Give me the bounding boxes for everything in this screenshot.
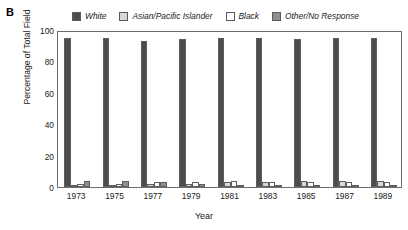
- legend-swatch-other-no-response: [272, 12, 281, 21]
- x-axis-tick-label: 1989: [363, 192, 403, 200]
- legend-item: Asian/Pacific Islander: [119, 9, 212, 23]
- bar: [294, 39, 301, 187]
- bar-group: [218, 32, 244, 187]
- x-axis-tick-label: 1981: [210, 192, 250, 200]
- bar-group: [64, 32, 90, 187]
- legend-swatch-white-series: [72, 12, 81, 21]
- bar-group: [333, 32, 359, 187]
- x-axis-tick-label: 1975: [95, 192, 135, 200]
- y-axis-tick-labels: 020406080100: [26, 0, 54, 230]
- bar: [103, 38, 110, 187]
- plot-area: [58, 32, 401, 187]
- x-axis-tick-label: 1977: [133, 192, 173, 200]
- bar: [179, 39, 186, 187]
- bar-group: [256, 32, 282, 187]
- legend-item-label: Black: [239, 12, 259, 20]
- x-axis-title: Year: [0, 211, 408, 221]
- legend-item: White: [72, 9, 106, 23]
- bar-group: [179, 32, 205, 187]
- y-axis-tick-label: 80: [30, 58, 54, 66]
- bar: [333, 38, 340, 187]
- x-axis-tick-label: 1973: [56, 192, 96, 200]
- y-axis-tick-label: 100: [30, 27, 54, 35]
- legend-item: Black: [226, 9, 259, 23]
- legend-item-label: Asian/Pacific Islander: [132, 12, 212, 20]
- bar: [199, 184, 206, 187]
- bar-group: [103, 32, 129, 187]
- y-axis-tick-label: 60: [30, 90, 54, 98]
- bar-group: [371, 32, 397, 187]
- bar: [371, 38, 378, 187]
- bar: [64, 38, 71, 187]
- chart-legend: WhiteAsian/Pacific IslanderBlackOther/No…: [72, 9, 359, 23]
- plot-frame: [57, 31, 402, 188]
- x-axis-tick-label: 1979: [171, 192, 211, 200]
- y-axis-tick-label: 20: [30, 153, 54, 161]
- bar: [256, 38, 263, 187]
- bar: [84, 181, 91, 187]
- bar: [352, 185, 359, 187]
- bar-group: [141, 32, 167, 187]
- figure-panel-b: B WhiteAsian/Pacific IslanderBlackOther/…: [0, 0, 408, 230]
- legend-swatch-black-series: [226, 12, 235, 21]
- legend-item: Other/No Response: [272, 9, 359, 23]
- bar: [122, 181, 129, 187]
- bar: [314, 185, 321, 187]
- legend-item-label: White: [85, 12, 106, 20]
- bar: [160, 182, 167, 187]
- panel-label: B: [6, 6, 14, 18]
- bar: [141, 41, 148, 187]
- y-axis-tick-label: 0: [30, 184, 54, 192]
- legend-item-label: Other/No Response: [285, 12, 359, 20]
- bar-group: [294, 32, 320, 187]
- legend-swatch-asian-pacific-islander: [119, 12, 128, 21]
- y-axis-tick-label: 40: [30, 121, 54, 129]
- bar: [237, 185, 244, 187]
- bar: [275, 185, 282, 187]
- bar: [390, 185, 397, 187]
- x-axis-tick-label: 1983: [248, 192, 288, 200]
- x-axis-tick-label: 1987: [325, 192, 365, 200]
- x-axis-tick-label: 1985: [286, 192, 326, 200]
- bar: [218, 38, 225, 187]
